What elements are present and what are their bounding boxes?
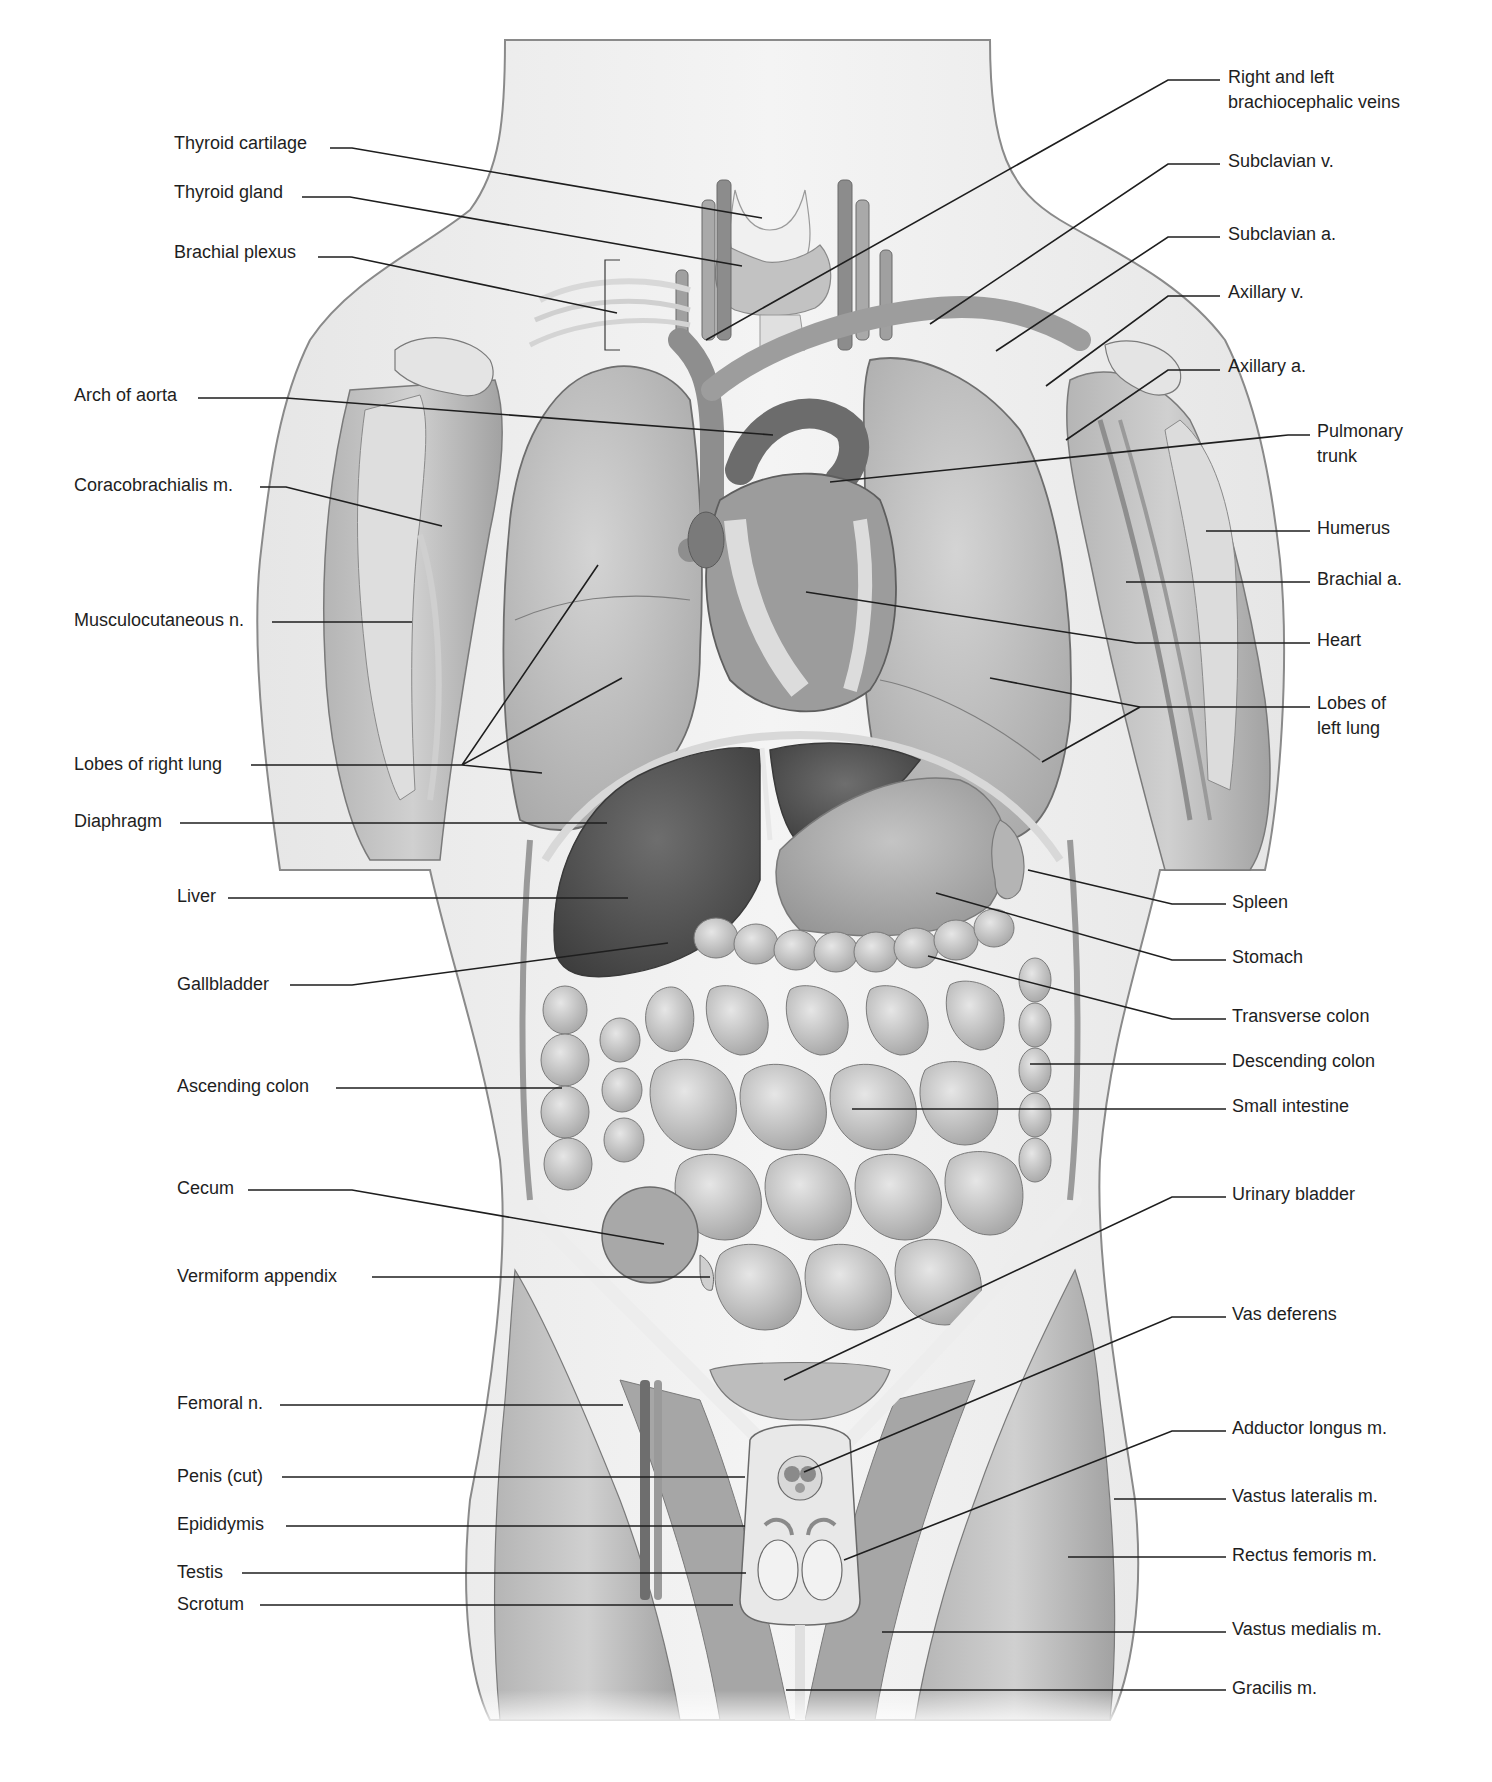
label-testis: Testis (177, 1560, 223, 1585)
label-penis-cut: Penis (cut) (177, 1464, 263, 1489)
label-vastus-medialis: Vastus medialis m. (1232, 1617, 1382, 1642)
label-humerus: Humerus (1317, 516, 1390, 541)
label-stomach: Stomach (1232, 945, 1303, 970)
label-coracobrachialis: Coracobrachialis m. (74, 473, 233, 498)
label-musculocutaneous: Musculocutaneous n. (74, 608, 244, 633)
label-femoral-n: Femoral n. (177, 1391, 263, 1416)
label-lobes-right-lung: Lobes of right lung (74, 752, 222, 777)
label-gallbladder: Gallbladder (177, 972, 269, 997)
label-vermiform-appendix: Vermiform appendix (177, 1264, 337, 1289)
label-subclavian-a: Subclavian a. (1228, 222, 1336, 247)
label-subclavian-v: Subclavian v. (1228, 149, 1334, 174)
label-axillary-v: Axillary v. (1228, 280, 1304, 305)
label-thyroid-cartilage: Thyroid cartilage (174, 131, 307, 156)
label-liver: Liver (177, 884, 216, 909)
label-pulmonary-trunk: Pulmonary trunk (1317, 419, 1403, 469)
label-ascending-colon: Ascending colon (177, 1074, 309, 1099)
label-transverse-colon: Transverse colon (1232, 1004, 1369, 1029)
label-adductor-longus: Adductor longus m. (1232, 1416, 1387, 1441)
label-vastus-lateralis: Vastus lateralis m. (1232, 1484, 1378, 1509)
descending-colon-shape (1019, 958, 1051, 1182)
label-descending-colon: Descending colon (1232, 1049, 1375, 1074)
label-scrotum: Scrotum (177, 1592, 244, 1617)
label-brachiocephalic-veins: Right and left brachiocephalic veins (1228, 65, 1400, 115)
label-urinary-bladder: Urinary bladder (1232, 1182, 1355, 1207)
label-gracilis: Gracilis m. (1232, 1676, 1317, 1701)
label-diaphragm: Diaphragm (74, 809, 162, 834)
label-heart: Heart (1317, 628, 1361, 653)
label-axillary-a: Axillary a. (1228, 354, 1306, 379)
label-vas-deferens: Vas deferens (1232, 1302, 1337, 1327)
label-arch-of-aorta: Arch of aorta (74, 383, 177, 408)
label-spleen: Spleen (1232, 890, 1288, 915)
label-rectus-femoris: Rectus femoris m. (1232, 1543, 1377, 1568)
label-cecum: Cecum (177, 1176, 234, 1201)
label-brachial-a: Brachial a. (1317, 567, 1402, 592)
label-small-intestine: Small intestine (1232, 1094, 1349, 1119)
label-brachial-plexus: Brachial plexus (174, 240, 296, 265)
label-lobes-left-lung: Lobes of left lung (1317, 691, 1386, 741)
label-thyroid-gland: Thyroid gland (174, 180, 283, 205)
label-epididymis: Epididymis (177, 1512, 264, 1537)
